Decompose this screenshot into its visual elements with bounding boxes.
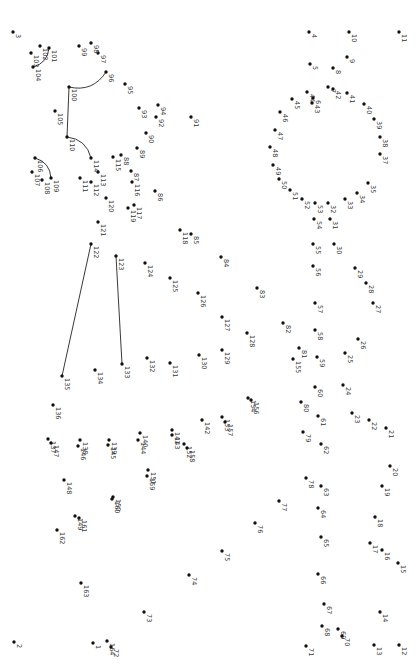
dot-number-label: 109: [52, 180, 60, 192]
dot-28: 28: [364, 281, 375, 293]
dot-61: 61: [316, 414, 327, 426]
dot-118: 118: [178, 228, 189, 244]
dot-115: 115: [111, 155, 122, 171]
dot-34: 34: [355, 191, 366, 203]
dot-number-label: 43: [313, 105, 321, 113]
dot-number-label: 162: [58, 532, 66, 544]
dot-number-label: 26: [359, 341, 367, 349]
dot-10: 10: [347, 30, 358, 42]
dot-number-label: 59: [318, 359, 326, 367]
dot-number-label: 163: [82, 585, 90, 597]
dot-132: 132: [145, 356, 156, 372]
dot-number-label: 79: [304, 434, 312, 442]
dot-number-label: 16: [383, 552, 391, 560]
dot-104: 104: [31, 65, 42, 81]
dot-number-label: 96: [107, 74, 115, 82]
dot-number-label: 85: [192, 236, 200, 244]
dot-131: 131: [168, 361, 179, 377]
dot-85: 85: [189, 232, 200, 244]
dot-number-label: 158: [188, 450, 196, 462]
dot-number-label: 28: [367, 285, 375, 293]
dot-number-label: 156: [252, 402, 260, 414]
dot-number-label: 161: [80, 520, 88, 532]
dot-number-label: 130: [200, 357, 208, 369]
dot-number-label: 66: [319, 576, 327, 584]
dot-number-label: 1: [94, 645, 102, 649]
dot-number-label: 54: [315, 221, 323, 229]
dot-number-label: 8: [334, 70, 342, 74]
dot-number-label: 144: [139, 442, 147, 454]
dot-23: 23: [350, 411, 361, 423]
dot-number-label: 81: [300, 350, 308, 358]
dot-number-label: 57: [316, 305, 324, 313]
dot-number-label: 147: [52, 445, 60, 457]
dot-128: 128: [245, 331, 256, 347]
dot-number-label: 80: [302, 404, 310, 412]
dot-number-label: 12: [400, 647, 408, 655]
dot-3: 3: [11, 30, 22, 38]
dot-105: 105: [53, 109, 64, 125]
dot-15: 15: [396, 561, 407, 573]
dot-19: 19: [380, 484, 391, 496]
dot-18: 18: [373, 515, 384, 527]
dot-17: 17: [368, 541, 379, 553]
dot-155: 155: [291, 357, 302, 373]
dot-54: 54: [312, 217, 323, 229]
dot-number-label: 42: [334, 91, 342, 99]
dot-number-label: 108: [43, 182, 51, 194]
dot-106: 106: [33, 156, 44, 172]
dot-124: 124: [143, 261, 154, 277]
dot-29: 29: [353, 266, 364, 278]
dot-164: 164: [105, 639, 116, 655]
dot-number-label: 113: [99, 174, 107, 186]
dot-163: 163: [79, 581, 90, 597]
dot-number-label: 29: [356, 270, 364, 278]
dot-number-label: 60: [316, 389, 324, 397]
dot-111: 111: [78, 176, 89, 192]
dot-number-label: 114: [92, 160, 100, 172]
dot-41: 41: [345, 91, 356, 103]
dot-number-label: 39: [375, 121, 383, 129]
dot-number-label: 45: [293, 101, 301, 109]
dot-number-label: 62: [322, 446, 330, 454]
dot-number-label: 15: [399, 565, 407, 573]
dot-number-label: 19: [383, 488, 391, 496]
dot-93: 93: [137, 106, 148, 118]
dot-95: 95: [123, 82, 134, 94]
dot-number-label: 27: [374, 305, 382, 313]
dot-14: 14: [378, 610, 389, 622]
dot-number-label: 97: [99, 55, 107, 63]
dot-number-label: 44: [308, 94, 316, 102]
dot-37: 37: [378, 152, 389, 164]
dot-number-label: 58: [316, 332, 324, 340]
dot-number-label: 37: [381, 156, 389, 164]
dot-number-label: 104: [34, 69, 42, 81]
line-123-133: [116, 256, 122, 364]
dot-66: 66: [316, 572, 327, 584]
dot-31: 31: [328, 217, 339, 229]
dot-number-label: 70: [343, 638, 351, 646]
dot-8: 8: [331, 66, 342, 74]
dot-162: 162: [55, 528, 66, 544]
dot-56: 56: [311, 264, 322, 276]
dot-number-label: 148: [65, 482, 73, 494]
dot-number-label: 164: [108, 643, 116, 655]
dot-81: 81: [297, 346, 308, 358]
dot-number-label: 160: [113, 501, 121, 513]
dot-120: 120: [104, 196, 115, 212]
dot-number-label: 89: [138, 150, 146, 158]
dot-121: 121: [96, 220, 107, 236]
dot-number-label: 35: [369, 185, 377, 193]
dot-44: 44: [305, 90, 316, 102]
dot-96: 96: [104, 70, 115, 82]
dot-number-label: 14: [381, 614, 389, 622]
dot-89: 89: [135, 146, 146, 158]
dot-number-label: 63: [322, 488, 330, 496]
dot-2: 2: [12, 640, 23, 648]
dot-71: 71: [304, 644, 315, 656]
dot-number-label: 9: [348, 59, 356, 63]
line-96-100: [69, 72, 106, 88]
dot-65: 65: [319, 535, 330, 547]
dot-number-label: 131: [171, 365, 179, 377]
dot-number-label: 22: [370, 422, 378, 430]
